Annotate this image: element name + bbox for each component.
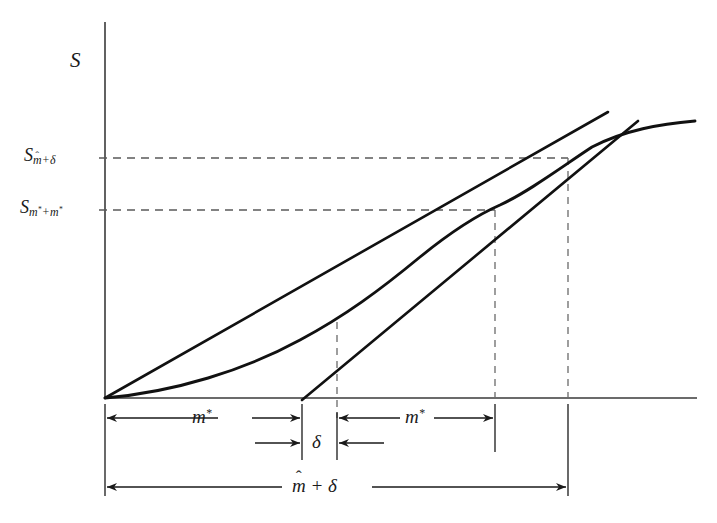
dim-label-delta: δ — [312, 432, 321, 451]
ytick-label-s-mstar-mstar: Sm*+m* — [20, 198, 63, 219]
dim-label-mhat-plus-delta: ̂m + δ — [292, 476, 337, 495]
ytick-label-s-mhat-delta: Ŝm+δ — [24, 146, 56, 167]
y-axis-label: S — [70, 50, 81, 71]
diagram-svg — [0, 0, 717, 523]
figure-canvas: S Ŝm+δ Sm*+m* m* δ m* ̂m + δ — [0, 0, 717, 523]
dim-label-mstar-left: m* — [192, 407, 212, 426]
curves — [105, 112, 695, 400]
vertical-droplines — [337, 158, 568, 418]
horizontal-gridlines — [99, 158, 568, 210]
s-curve — [105, 121, 695, 398]
chord-from-delta — [302, 121, 638, 400]
dim-label-mstar-right: m* — [405, 407, 425, 426]
